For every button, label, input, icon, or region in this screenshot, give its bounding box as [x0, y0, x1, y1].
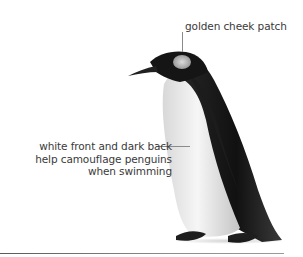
penguin-icon [0, 0, 303, 257]
ground-baseline [0, 253, 284, 254]
camouflage-label-line-3: when swimming [35, 165, 172, 178]
penguin-illustration [0, 0, 303, 257]
ground-shadow [175, 238, 285, 244]
camouflage-label-line-2: help camouflage penguins [35, 153, 172, 166]
camouflage-label-line-1: white front and dark back [35, 140, 172, 153]
camouflage-label: white front and dark back help camouflag… [35, 140, 172, 178]
cheek-patch-label: golden cheek patch [185, 20, 287, 33]
cheek-leader-line [182, 32, 183, 52]
